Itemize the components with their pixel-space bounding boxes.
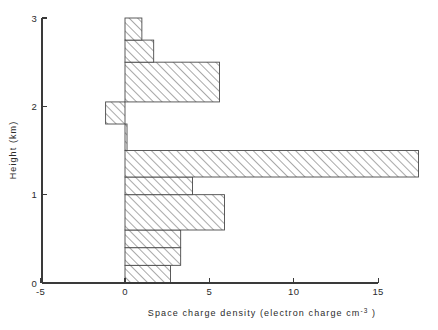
bar xyxy=(125,124,127,150)
x-tick-label: 5 xyxy=(207,286,213,297)
x-tick-label: 0 xyxy=(122,286,128,297)
chart-figure: -5051015 0123 Space charge density (elec… xyxy=(0,0,438,330)
bar xyxy=(125,195,225,230)
bar xyxy=(125,265,171,283)
y-axis-ticks: 0123 xyxy=(31,13,47,289)
y-tick-label: 0 xyxy=(31,278,37,289)
bar xyxy=(106,102,125,124)
x-tick-label: -5 xyxy=(36,286,45,297)
bar xyxy=(125,18,142,40)
y-tick-label: 3 xyxy=(31,13,37,24)
bar xyxy=(125,230,181,248)
x-axis-ticks: -5051015 xyxy=(36,278,384,297)
bars-group xyxy=(106,18,419,283)
y-axis-title: Height (km) xyxy=(8,121,18,180)
x-axis-title: Space charge density (electron charge cm… xyxy=(148,307,376,319)
bar xyxy=(125,248,181,266)
x-tick-label: 10 xyxy=(288,286,299,297)
y-tick-label: 2 xyxy=(31,101,37,112)
x-tick-label: 15 xyxy=(372,286,383,297)
y-tick-label: 1 xyxy=(31,189,37,200)
bar xyxy=(125,40,154,62)
bar xyxy=(125,62,219,102)
space-charge-density-bar-chart: -5051015 0123 Space charge density (elec… xyxy=(0,0,438,330)
bar xyxy=(125,151,419,177)
bar xyxy=(125,177,192,195)
